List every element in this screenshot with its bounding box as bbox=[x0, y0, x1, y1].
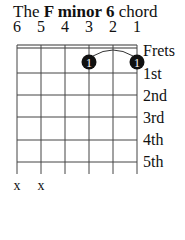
fret-label-3: 3rd bbox=[143, 109, 164, 127]
muted-marker-string-6: x bbox=[11, 178, 23, 194]
fret-label-5: 5th bbox=[143, 153, 163, 171]
muted-marker-string-5: x bbox=[35, 178, 47, 194]
fret-label-4: 4th bbox=[143, 131, 163, 149]
fret-label-header: Frets bbox=[143, 42, 175, 60]
finger-dot-string-3: 1 bbox=[82, 55, 97, 70]
fret-label-2: 2nd bbox=[143, 87, 167, 105]
finger-number: 1 bbox=[86, 56, 92, 70]
finger-number: 1 bbox=[134, 56, 140, 70]
fret-label-1: 1st bbox=[143, 65, 162, 83]
